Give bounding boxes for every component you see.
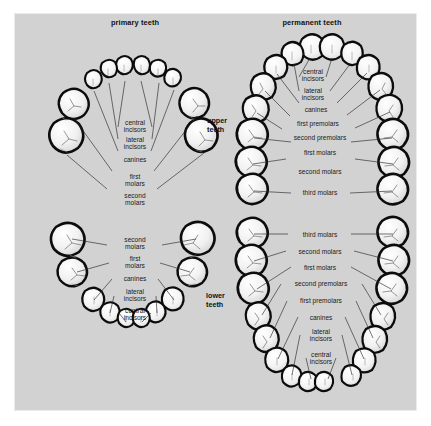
tooth-third-molar — [237, 174, 268, 204]
label-second-premolars: second premolars — [295, 280, 348, 288]
label-lateral-incisors-line2: incisors — [302, 94, 325, 101]
lower-teeth-line1: lower — [206, 291, 225, 300]
labels-permanent-lower: third molars second molars first molars … — [295, 231, 348, 365]
arch-primary-lower: second molars first molars canines later… — [51, 222, 215, 327]
tooth-group-permanent-lower-left — [236, 218, 289, 372]
tooth-group-primary-lower-left-molars — [51, 223, 87, 286]
label-central-incisors-line2: incisors — [124, 126, 147, 133]
label-first-molars: first molars — [304, 149, 337, 156]
label-canines: canines — [310, 314, 333, 321]
label-second-molars: second molars — [299, 168, 343, 175]
label-first-molars-line1: first — [130, 173, 141, 180]
label-lateral-incisors-line1: lateral — [312, 328, 330, 335]
upper-teeth-line2: teeth — [207, 125, 224, 134]
label-lateral-incisors-line1: lateral — [304, 87, 322, 94]
arch-primary-upper: central incisors lateral incisors canine… — [49, 56, 217, 206]
tooth-second-molar — [378, 245, 409, 276]
label-first-molars-line1: first — [130, 255, 141, 262]
label-central-incisors-line1: central — [311, 351, 331, 358]
tooth-first-molar — [179, 88, 209, 118]
tooth-canine — [164, 69, 181, 87]
label-first-molars-line2: molars — [125, 262, 145, 269]
tooth-first-molar — [57, 257, 87, 286]
tooth-group-permanent-lower-incisors — [282, 365, 361, 391]
label-lateral-incisors-line1: lateral — [126, 136, 144, 143]
upper-teeth-line1: upper — [207, 116, 227, 125]
title-permanent-teeth: permanent teeth — [283, 18, 342, 27]
dental-diagram-panel: primary teeth permanent teeth — [14, 13, 417, 411]
tooth-group-permanent-lower-right — [353, 217, 409, 372]
label-lateral-incisors-line2: incisors — [310, 335, 333, 342]
tooth-second-molar — [51, 223, 85, 256]
label-second-molars-line2: molars — [125, 243, 145, 250]
label-canines: canines — [124, 275, 147, 282]
tooth-group-primary-upper-incisors — [85, 56, 181, 88]
arch-permanent-lower: third molars second molars first molars … — [236, 217, 409, 391]
tooth-first-molar — [376, 273, 407, 304]
tooth-first-molar — [59, 89, 89, 119]
label-first-premolars: first premolars — [297, 120, 339, 128]
label-first-premolars: first premolars — [300, 297, 342, 305]
label-central-incisors-line1: central — [125, 119, 145, 126]
title-primary-teeth: primary teeth — [111, 18, 160, 27]
lower-teeth-line2: teeth — [206, 300, 223, 309]
tooth-central-incisor — [134, 56, 150, 74]
tooth-third-molar — [377, 174, 408, 204]
label-second-molars: second molars — [299, 248, 343, 255]
arch-label-upper-teeth: upper teeth — [207, 116, 227, 134]
tooth-group-primary-upper-left-molars — [49, 89, 89, 153]
label-third-molars: third molars — [303, 231, 338, 238]
label-canines: canines — [124, 156, 147, 163]
tooth-first-molar — [377, 119, 408, 150]
arch-label-lower-teeth: lower teeth — [206, 291, 225, 309]
labels-permanent-upper: central incisors lateral incisors canine… — [294, 68, 347, 196]
label-second-molars-line1: second — [124, 192, 146, 199]
label-central-incisors-line1: central — [125, 307, 145, 314]
label-lateral-incisors-line2: incisors — [124, 143, 147, 150]
label-lateral-incisors-line2: incisors — [124, 295, 147, 302]
dental-arches-svg: primary teeth permanent teeth — [14, 13, 417, 411]
label-second-molars-line1: second — [124, 236, 146, 243]
arch-permanent-upper: central incisors lateral incisors canine… — [236, 34, 409, 204]
tooth-central-incisor — [315, 372, 333, 391]
tooth-canine — [85, 70, 102, 88]
tooth-group-permanent-upper-left — [236, 73, 276, 204]
tooth-group-permanent-upper-right — [368, 73, 409, 204]
label-canines: canines — [305, 106, 328, 113]
label-second-molars-line2: molars — [125, 199, 145, 206]
tooth-group-primary-lower-right-molars — [177, 222, 214, 286]
tooth-third-molar — [377, 217, 408, 247]
label-central-incisors-line2: incisors — [302, 75, 325, 82]
tooth-central-incisor — [116, 56, 133, 74]
label-central-incisors-line1: central — [303, 68, 323, 75]
label-central-incisors-line2: incisors — [124, 314, 147, 321]
labels-primary-lower: second molars first molars canines later… — [124, 236, 147, 321]
label-central-incisors-line2: incisors — [310, 358, 333, 365]
tooth-lateral-incisor — [101, 60, 117, 78]
label-first-molars-line2: molars — [125, 180, 145, 187]
tooth-lateral-incisor — [341, 365, 361, 386]
label-lateral-incisors-line1: lateral — [126, 288, 144, 295]
label-third-molars: third molars — [303, 189, 338, 196]
tooth-second-premolar — [376, 95, 402, 122]
labels-primary-upper: central incisors lateral incisors canine… — [124, 119, 147, 206]
label-first-molars: first molars — [304, 264, 337, 271]
label-second-premolars: second premolars — [294, 134, 347, 142]
tooth-second-molar — [181, 222, 215, 255]
tooth-first-molar — [177, 257, 207, 286]
